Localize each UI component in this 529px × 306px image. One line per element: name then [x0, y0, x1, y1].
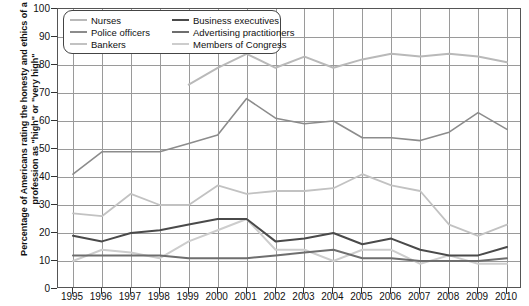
legend-label: Advertising practitioners [193, 27, 294, 38]
legend-item[interactable]: Bankers [70, 38, 150, 50]
legend-item[interactable]: Nurses [70, 14, 150, 26]
legend-column-right: Business executivesAdvertising practitio… [172, 14, 294, 50]
legend-item[interactable]: Police officers [70, 26, 150, 38]
y-tick-label: 50 [24, 143, 50, 154]
legend-swatch-icon [70, 31, 87, 33]
y-tick-label: 20 [24, 227, 50, 238]
y-tick-label: 0 [24, 283, 50, 294]
legend-swatch-icon [70, 19, 87, 21]
chart-legend: NursesPolice officersBankers Business ex… [63, 10, 281, 54]
legend-swatch-icon [172, 43, 189, 45]
series-line [73, 250, 507, 261]
y-tick-label: 60 [24, 115, 50, 126]
legend-label: Nurses [91, 15, 121, 26]
series-line [73, 174, 507, 236]
legend-column-left: NursesPolice officersBankers [70, 14, 150, 50]
legend-swatch-icon [172, 19, 189, 21]
y-tick-label: 30 [24, 199, 50, 210]
y-tick-label: 100 [24, 3, 50, 14]
legend-label: Police officers [91, 27, 150, 38]
y-tick-label: 80 [24, 59, 50, 70]
series-line [189, 54, 507, 85]
chart-root: Percentage of Americans rating the hones… [0, 0, 529, 306]
y-tick-label: 40 [24, 171, 50, 182]
y-tick-mark [51, 288, 57, 289]
y-tick-label: 90 [24, 31, 50, 42]
y-tick-label: 70 [24, 87, 50, 98]
series-line [73, 219, 507, 264]
series-line [73, 99, 507, 175]
legend-item[interactable]: Business executives [172, 14, 294, 26]
legend-swatch-icon [70, 43, 87, 45]
legend-swatch-icon [172, 31, 189, 33]
y-tick-label: 10 [24, 255, 50, 266]
legend-label: Business executives [193, 15, 279, 26]
legend-label: Members of Congress [193, 39, 286, 50]
legend-item[interactable]: Advertising practitioners [172, 26, 294, 38]
legend-item[interactable]: Members of Congress [172, 38, 294, 50]
legend-label: Bankers [91, 39, 126, 50]
